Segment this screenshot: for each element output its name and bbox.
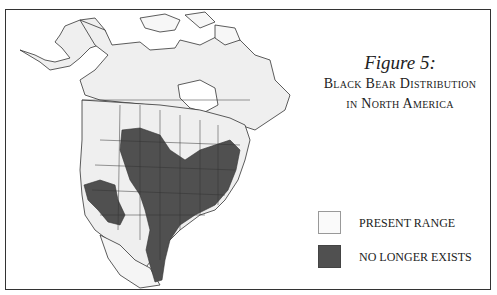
legend-label-no-longer-exists: NO LONGER EXISTS	[359, 250, 472, 265]
figure-label: Figure 5:	[300, 52, 497, 74]
legend-label-present-range: PRESENT RANGE	[359, 216, 455, 231]
legend-swatch-no-longer-exists	[318, 245, 341, 268]
figure-title-line1: Black Bear Distribution	[300, 74, 497, 94]
legend-swatch-present-range	[318, 211, 341, 234]
figure-title: Figure 5: Black Bear Distribution in Nor…	[300, 52, 497, 114]
arctic-islands	[140, 12, 240, 45]
figure-title-line2: in North America	[300, 94, 497, 114]
